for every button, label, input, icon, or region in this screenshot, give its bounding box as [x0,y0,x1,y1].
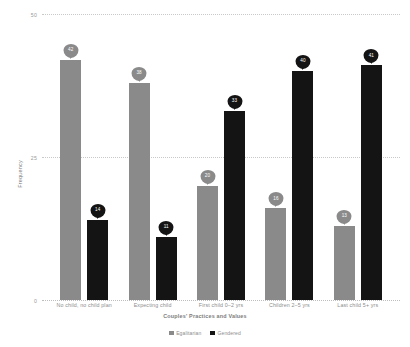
bar-wrap-egalitarian: 42 [60,14,81,300]
x-tick-label: No child, no child plan [50,302,118,308]
bar-gendered[interactable]: 33 [224,111,245,300]
legend-swatch-icon [210,331,215,336]
bar-egalitarian[interactable]: 16 [265,208,286,300]
x-axis-title: Couples' Practices and Values [0,313,410,319]
x-axis-labels: No child, no child plan Expecting child … [42,302,400,308]
bar-wrap-gendered: 40 [292,14,313,300]
bar-value-label: 41 [364,49,379,63]
chart-legend: Egalitarian Gendered [0,330,410,336]
bar-wrap-gendered: 41 [361,14,382,300]
bar-wrap-gendered: 11 [156,14,177,300]
bar-group: 20 33 [187,14,255,300]
x-tick-label: Children 2–5 yrs [255,302,323,308]
bar-value-label: 14 [90,204,105,218]
bar-value-label: 33 [227,95,242,109]
legend-item-gendered[interactable]: Gendered [210,330,240,336]
y-tick-label: 50 [31,12,37,18]
bar-egalitarian[interactable]: 42 [60,60,81,300]
bar-value-label: 16 [268,192,283,206]
legend-label: Gendered [217,330,240,336]
bar-gendered[interactable]: 40 [292,71,313,300]
bar-value-label: 42 [63,44,78,58]
x-tick-label: Expecting child [118,302,186,308]
bar-gendered[interactable]: 41 [361,65,382,300]
bar-egalitarian[interactable]: 13 [334,226,355,300]
grouped-bar-chart: Frequency 50 25 0 42 14 [0,0,410,347]
bar-gendered[interactable]: 11 [156,237,177,300]
bar-group: 13 41 [324,14,392,300]
legend-label: Egalitarian [176,330,201,336]
x-tick-label: Last child 5+ yrs [324,302,392,308]
gridline-0: 0 [42,300,400,301]
bar-wrap-egalitarian: 38 [129,14,150,300]
bar-egalitarian[interactable]: 20 [197,186,218,300]
legend-item-egalitarian[interactable]: Egalitarian [169,330,201,336]
bar-value-label: 11 [159,221,174,235]
bar-wrap-egalitarian: 13 [334,14,355,300]
bar-wrap-gendered: 33 [224,14,245,300]
legend-swatch-icon [169,331,174,336]
bar-value-label: 40 [295,55,310,69]
bar-wrap-egalitarian: 16 [265,14,286,300]
bar-wrap-egalitarian: 20 [197,14,218,300]
bar-value-label: 20 [200,170,215,184]
bar-egalitarian[interactable]: 38 [129,83,150,300]
bar-wrap-gendered: 14 [87,14,108,300]
bar-groups: 42 14 38 11 [42,14,400,300]
y-tick-label: 25 [31,155,37,161]
bar-value-label: 13 [337,210,352,224]
y-axis-title: Frequency [17,160,23,188]
plot-area: 50 25 0 42 14 [42,14,400,300]
x-tick-label: First child 0–2 yrs [187,302,255,308]
bar-group: 38 11 [118,14,186,300]
bar-group: 42 14 [50,14,118,300]
y-tick-label: 0 [34,298,37,304]
bar-group: 16 40 [255,14,323,300]
bar-gendered[interactable]: 14 [87,220,108,300]
bar-value-label: 38 [132,67,147,81]
